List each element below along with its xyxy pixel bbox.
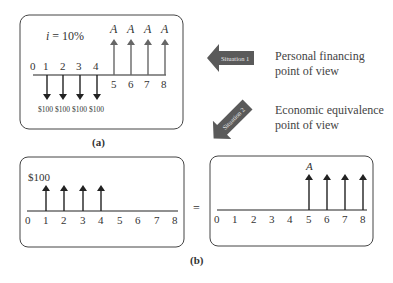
caption-b: (b) xyxy=(190,254,204,267)
svg-text:8: 8 xyxy=(360,213,366,225)
svg-text:0: 0 xyxy=(214,213,220,225)
svg-text:$100: $100 xyxy=(38,105,53,114)
svg-text:2: 2 xyxy=(61,214,67,226)
outflow-arrows xyxy=(47,75,97,97)
situation-1-arrow: Situation 1 xyxy=(207,44,254,72)
svg-text:Situation 1: Situation 1 xyxy=(221,55,249,62)
panel-a: i = 10% 0 1 2 3 4 5 6 7 8 $100 $100 $100… xyxy=(20,15,183,149)
svg-text:3: 3 xyxy=(76,60,82,72)
svg-text:5: 5 xyxy=(117,214,123,226)
svg-text:1: 1 xyxy=(232,213,238,225)
svg-text:1: 1 xyxy=(43,60,49,72)
svg-text:A: A xyxy=(160,22,169,36)
svg-text:4: 4 xyxy=(93,60,99,72)
caption-a: (a) xyxy=(92,136,105,149)
svg-text:0: 0 xyxy=(30,60,36,72)
svg-text:3: 3 xyxy=(269,213,275,225)
inflow-arrows xyxy=(114,42,165,75)
svg-text:7: 7 xyxy=(342,213,348,225)
situation-2-description: Economic equivalence point of view xyxy=(275,103,384,133)
panel-b-right: A 0 1 2 3 4 5 6 7 8 xyxy=(210,156,373,246)
svg-text:2: 2 xyxy=(251,213,257,225)
svg-text:A: A xyxy=(126,22,135,36)
svg-text:A: A xyxy=(305,160,313,172)
equals-sign: = xyxy=(193,201,200,215)
tick-labels-bottom: 5 6 7 8 xyxy=(111,78,167,90)
situation-1-description: Personal financing point of view xyxy=(275,49,365,79)
svg-text:$100: $100 xyxy=(28,171,51,183)
svg-text:7: 7 xyxy=(144,78,150,90)
inflow-labels: A A A A xyxy=(109,22,169,36)
svg-text:$100: $100 xyxy=(72,105,87,114)
situation-2-arrow: Situation 2 xyxy=(204,95,256,147)
svg-text:$100: $100 xyxy=(89,105,104,114)
svg-text:2: 2 xyxy=(60,60,66,72)
svg-text:4: 4 xyxy=(98,214,104,226)
outflow-labels: $100 $100 $100 $100 xyxy=(38,105,104,114)
tick-labels-top: 0 1 2 3 4 xyxy=(30,60,99,72)
svg-text:0: 0 xyxy=(25,214,31,226)
svg-text:7: 7 xyxy=(154,214,160,226)
interest-rate-label: i = 10% xyxy=(46,29,84,43)
svg-text:4: 4 xyxy=(287,213,293,225)
svg-text:6: 6 xyxy=(128,78,134,90)
svg-text:5: 5 xyxy=(111,78,117,90)
cash-flow-diagram: i = 10% 0 1 2 3 4 5 6 7 8 $100 $100 $100… xyxy=(0,0,393,283)
svg-text:3: 3 xyxy=(80,214,86,226)
svg-text:6: 6 xyxy=(135,214,141,226)
panel-b-left: $100 0 1 2 3 4 5 6 7 8 xyxy=(20,157,184,247)
svg-text:8: 8 xyxy=(161,78,167,90)
svg-text:1: 1 xyxy=(43,214,49,226)
svg-text:$100: $100 xyxy=(55,105,70,114)
svg-text:A: A xyxy=(143,22,152,36)
svg-text:8: 8 xyxy=(172,214,178,226)
svg-text:A: A xyxy=(109,22,118,36)
svg-text:6: 6 xyxy=(324,213,330,225)
svg-text:5: 5 xyxy=(306,213,312,225)
